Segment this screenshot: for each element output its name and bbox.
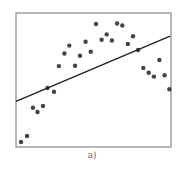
data-point [57, 64, 61, 68]
data-points [19, 21, 172, 144]
data-point [67, 43, 71, 47]
data-point [73, 63, 77, 67]
data-point [41, 104, 45, 108]
data-point [83, 40, 87, 44]
data-point [120, 23, 124, 27]
data-point [31, 106, 35, 110]
data-point [131, 34, 135, 38]
figure-caption: a) [0, 150, 184, 160]
data-point [94, 22, 98, 26]
data-point [35, 110, 39, 114]
data-point [110, 38, 114, 42]
scatter-chart [0, 0, 184, 174]
data-point [167, 87, 171, 91]
data-point [115, 21, 119, 25]
data-point [78, 54, 82, 58]
data-point [62, 51, 66, 55]
data-point [126, 42, 130, 46]
data-point [157, 58, 161, 62]
data-point [152, 74, 156, 78]
data-point [52, 90, 56, 94]
plot-frame [16, 13, 171, 147]
data-point [105, 32, 109, 36]
data-point [89, 50, 93, 54]
data-point [25, 134, 29, 138]
data-point [141, 66, 145, 70]
data-point [19, 140, 23, 144]
data-point [147, 71, 151, 75]
data-point [99, 38, 103, 42]
data-point [162, 73, 166, 77]
regression-line [16, 36, 170, 101]
